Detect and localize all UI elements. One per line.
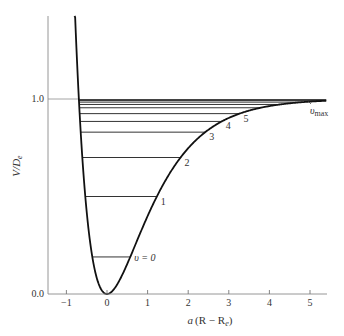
potential-curve [75, 16, 327, 294]
xtick-label: −1 [61, 297, 72, 308]
vmax-annotation: υmax [307, 100, 328, 118]
vibrational-levels [79, 100, 326, 257]
level-label-v4: 4 [226, 120, 231, 131]
xtick-label: 3 [226, 297, 231, 308]
xtick-label: 4 [267, 297, 272, 308]
vmax-label: υmax [310, 105, 328, 118]
xtick-label: 2 [186, 297, 191, 308]
x-ticks: −1012345 [61, 290, 312, 308]
level-labels: υ = 012345 [134, 113, 248, 263]
ytick-label-1: 1.0 [32, 93, 45, 104]
xtick-label: 1 [145, 297, 150, 308]
xtick-label: 5 [308, 297, 313, 308]
ytick-label-0: 0.0 [32, 288, 45, 299]
axes [48, 16, 327, 294]
level-label-v2: 2 [185, 157, 190, 168]
y-axis-label: V/De [10, 155, 24, 177]
level-label-v3: 3 [209, 131, 214, 142]
morse-potential-chart: −1012345 0.0 1.0 V/De a(R − Re) υmax υ =… [0, 0, 344, 336]
level-label-v5: 5 [244, 113, 249, 124]
x-axis-label: a(R − Re) [188, 314, 233, 328]
level-label-v1: 1 [161, 196, 166, 207]
level-label-v0: υ = 0 [134, 252, 155, 263]
xtick-label: 0 [105, 297, 110, 308]
